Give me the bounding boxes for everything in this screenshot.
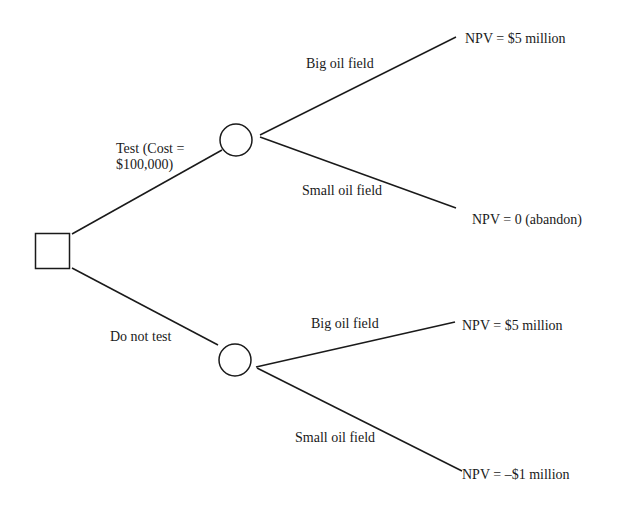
test-small-field-label: Small oil field	[302, 183, 382, 199]
no-test-big-field-label: Big oil field	[311, 316, 379, 332]
test-branch-label-line1: Test (Cost =	[116, 141, 184, 157]
test-big-field-line	[260, 37, 456, 135]
chance-node-test	[220, 124, 252, 156]
no-test-branch-label: Do not test	[110, 329, 171, 345]
test-branch-label: Test (Cost = $100,000)	[116, 141, 184, 173]
no-test-big-field-payoff: NPV = $5 million	[462, 318, 563, 334]
no-test-small-field-payoff: NPV = –$1 million	[462, 467, 570, 483]
test-big-field-payoff: NPV = $5 million	[465, 31, 566, 47]
chance-node-no-test	[219, 344, 251, 376]
test-small-field-payoff: NPV = 0 (abandon)	[472, 212, 582, 228]
no-test-small-field-line	[257, 368, 462, 471]
test-big-field-label: Big oil field	[306, 56, 374, 72]
no-test-small-field-label: Small oil field	[295, 430, 375, 446]
test-branch-label-line2: $100,000)	[116, 157, 184, 173]
decision-node-square	[36, 234, 70, 269]
